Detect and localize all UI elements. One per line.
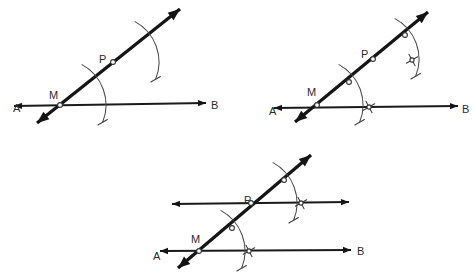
panel-3-label-m: M	[191, 233, 200, 245]
panel-3-arc-at-M	[221, 210, 245, 268]
panel-3-label-b: B	[357, 245, 364, 257]
panel-3-point-m	[197, 249, 202, 254]
panel-1-arc-at-M-tick	[98, 119, 108, 125]
panel-2-label-m: M	[307, 86, 316, 98]
panel-3-line-ab-arrowhead-end	[343, 247, 351, 253]
diagram-canvas: ABMPABMPABMP	[0, 0, 474, 277]
panel-2-line-ab	[274, 106, 458, 108]
panel-2-label-p: P	[361, 48, 368, 60]
panel-2-x-mark-upper-node	[410, 58, 414, 62]
panel-1-point-m	[58, 103, 63, 108]
panel-1-point-p	[111, 60, 116, 65]
panel-2-arc-at-M-tick	[355, 119, 365, 125]
panel-1-line-ab	[14, 103, 206, 106]
panel-3-arc-at-P-tick	[289, 217, 299, 223]
panel-3-line-parallel	[172, 202, 349, 204]
panel-1-label-b: B	[211, 99, 218, 111]
panel-3-line-ab-arrowhead-start	[160, 248, 168, 254]
panel-3-label-a: A	[153, 250, 161, 262]
panel-2-label-a: A	[269, 105, 277, 117]
panel-2-arc-at-M	[339, 64, 363, 122]
panel-3-x-mark-on-AB-node	[247, 249, 251, 253]
panel-2-x-mark-on-AB-node	[367, 105, 371, 109]
panel-1-label-m: M	[49, 89, 58, 101]
panel-2-arc-at-P-tick	[411, 73, 421, 79]
panel-2-point-p	[371, 57, 376, 62]
panel-3-node-lower-arc	[230, 226, 235, 231]
construction-diagram: ABMPABMPABMP	[0, 0, 474, 277]
panel-3-arc-at-M-tick	[237, 265, 247, 271]
panel-1-line-ab-arrowhead-end	[198, 100, 206, 106]
panel-2-arc-at-P	[395, 18, 419, 76]
panel-2-label-b: B	[462, 103, 469, 115]
panel-3-line-parallel-arrowhead-end	[341, 199, 349, 205]
panel-3-label-p: P	[244, 194, 251, 206]
panel-3-node-upper-arc	[282, 178, 287, 183]
panel-1-label-a: A	[13, 102, 21, 114]
panel-1-label-p: P	[99, 53, 106, 65]
panel-1-arc-at-M	[82, 64, 106, 122]
panel-1-arc-at-P-tick	[151, 76, 161, 82]
panel-2-node-upper-arc	[403, 33, 408, 38]
panel-3-line-ab	[160, 250, 351, 251]
panel-3-x-mark-on-parallel-node	[299, 201, 303, 205]
panel-2-node-lower-arc	[347, 80, 352, 85]
panel-2-point-m	[315, 103, 320, 108]
panel-2-line-ab-arrowhead-end	[450, 103, 458, 109]
panel-3-line-parallel-arrowhead-start	[172, 201, 180, 207]
